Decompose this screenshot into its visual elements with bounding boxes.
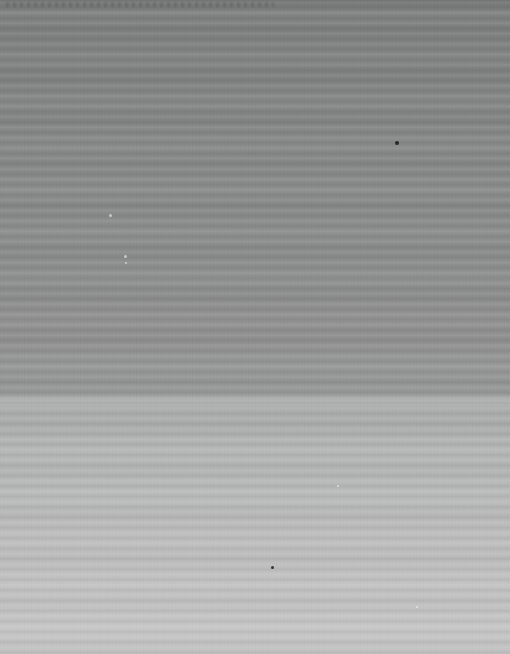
luminance-gradient-layer — [0, 0, 510, 654]
illegible-ghost-text-band — [0, 0, 510, 11]
dark-speck — [271, 566, 274, 569]
artifact-speck-layer — [0, 0, 510, 654]
degraded-scan-image — [0, 0, 510, 654]
light-speck — [109, 214, 112, 217]
light-speck — [416, 606, 418, 608]
light-speck — [124, 255, 127, 258]
vignette-layer — [0, 0, 510, 654]
light-speck — [337, 485, 339, 487]
vertical-weave-texture-layer — [0, 0, 510, 654]
dark-speck — [395, 141, 399, 145]
horizontal-scanline-layer — [0, 0, 510, 654]
brightness-step-boundary — [0, 396, 510, 406]
scanline-beat-layer — [0, 0, 510, 654]
light-speck — [125, 262, 127, 264]
